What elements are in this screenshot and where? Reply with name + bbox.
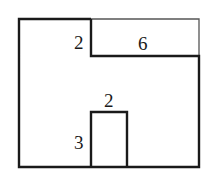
inner-rectangle: [91, 112, 127, 167]
label-notch-height: 2: [74, 32, 84, 53]
label-inner-width: 2: [104, 90, 114, 111]
floor-plan-diagram: 2 6 2 3: [0, 0, 212, 169]
label-inner-height: 3: [74, 132, 84, 153]
label-notch-width: 6: [138, 33, 148, 54]
